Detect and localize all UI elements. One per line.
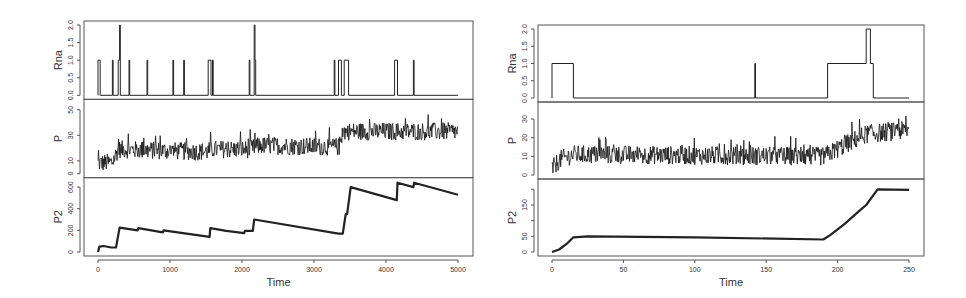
y-tick-label: 0.0 [67, 90, 74, 100]
x-tick-label: 200 [832, 266, 844, 273]
y-axis-label: P2 [506, 211, 518, 224]
y-tick-label: 50 [521, 232, 528, 240]
x-tick-label: 0 [96, 266, 100, 273]
y-axis-label: P2 [52, 210, 64, 223]
left-time-series-figure: 0.00.51.01.52.0Rna0103050P0200400600P201… [52, 20, 473, 288]
y-tick-label: 1.5 [67, 38, 74, 48]
p2-series [552, 189, 909, 252]
y-tick-label: 1.5 [521, 41, 528, 51]
y-tick-label: 1.0 [521, 59, 528, 69]
x-tick-label: 3000 [306, 266, 322, 273]
rna-series [552, 29, 909, 98]
simulation-figure: 0.00.51.01.52.0Rna0103050P0200400600P201… [0, 0, 966, 298]
x-axis: 010002000300040005000Time [96, 260, 466, 288]
p2-series [98, 183, 458, 252]
x-tick-label: 150 [760, 266, 772, 273]
x-tick-label: 100 [689, 266, 701, 273]
y-tick-label: 0 [67, 172, 74, 176]
y-tick-label: 2.0 [67, 20, 74, 30]
x-tick-label: 1000 [162, 266, 178, 273]
y-tick-label: 30 [521, 115, 528, 123]
x-axis: 050100150200250Time [550, 260, 915, 288]
right-time-series-figure: 0.00.51.01.52.0Rna0102030P050150P2050100… [506, 24, 924, 288]
y-tick-label: 50 [67, 106, 74, 114]
panel-p2: 050150P2 [506, 179, 924, 256]
panel-rna: 0.00.51.01.52.0Rna [506, 24, 924, 103]
y-axis-label: Rna [506, 53, 518, 74]
x-tick-label: 5000 [450, 266, 466, 273]
x-axis-label: Time [719, 276, 743, 288]
y-tick-label: 0 [521, 250, 528, 254]
panel-p: 0103050P [52, 99, 473, 177]
y-tick-label: 150 [521, 199, 528, 211]
y-tick-label: 20 [521, 134, 528, 142]
panel-rna: 0.00.51.01.52.0Rna [52, 20, 473, 100]
x-tick-label: 250 [903, 266, 915, 273]
x-tick-label: 2000 [234, 266, 250, 273]
panel-frame [84, 99, 473, 177]
y-tick-label: 10 [67, 157, 74, 165]
panel-frame [84, 178, 473, 256]
panel-frame [84, 21, 473, 99]
p-series [98, 115, 458, 170]
y-axis-label: P [52, 135, 64, 142]
y-axis-label: Rna [52, 49, 64, 70]
y-tick-label: 2.0 [521, 24, 528, 34]
x-tick-label: 4000 [378, 266, 394, 273]
y-tick-label: 400 [67, 203, 74, 215]
x-tick-label: 0 [550, 266, 554, 273]
panel-p2: 0200400600P2 [52, 178, 473, 256]
p-series [552, 116, 909, 173]
x-axis-label: Time [266, 276, 290, 288]
y-tick-label: 1.0 [67, 55, 74, 65]
y-tick-label: 200 [67, 224, 74, 236]
y-tick-label: 10 [521, 152, 528, 160]
y-tick-label: 0.0 [521, 93, 528, 103]
x-tick-label: 50 [620, 266, 628, 273]
y-axis-label: P [506, 137, 518, 144]
y-tick-label: 0 [521, 173, 528, 177]
y-tick-label: 0 [67, 250, 74, 254]
y-tick-label: 0.5 [67, 73, 74, 83]
rna-series [98, 25, 458, 95]
y-tick-label: 0.5 [521, 76, 528, 86]
y-tick-label: 600 [67, 181, 74, 193]
panel-p: 0102030P [506, 102, 924, 179]
y-tick-label: 30 [67, 131, 74, 139]
panel-frame [538, 179, 924, 256]
